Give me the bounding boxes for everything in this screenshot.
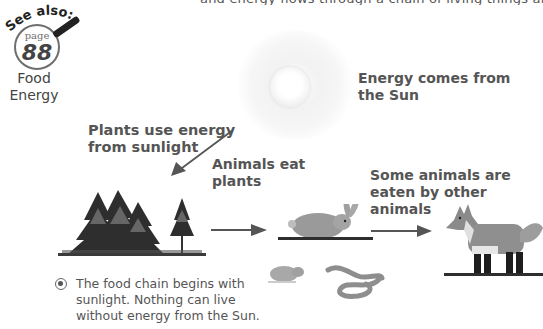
caption-line2: sunlight. Nothing can live (76, 292, 306, 308)
caption-text: The food chain begins with sunlight. Not… (76, 276, 306, 324)
arrow-sun-to-plants (171, 130, 233, 176)
caption-line3: without energy from the Sun. (76, 308, 306, 324)
caption-line1: The food chain begins with (76, 276, 306, 292)
snake-illustration (322, 262, 387, 302)
arrow-animals-to-fox (371, 225, 432, 237)
rabbit-illustration (278, 204, 373, 246)
trees-illustration (58, 190, 206, 260)
arrow-plants-to-animals (211, 224, 267, 236)
target-bullet-icon (55, 278, 67, 290)
fox-illustration (440, 200, 543, 282)
